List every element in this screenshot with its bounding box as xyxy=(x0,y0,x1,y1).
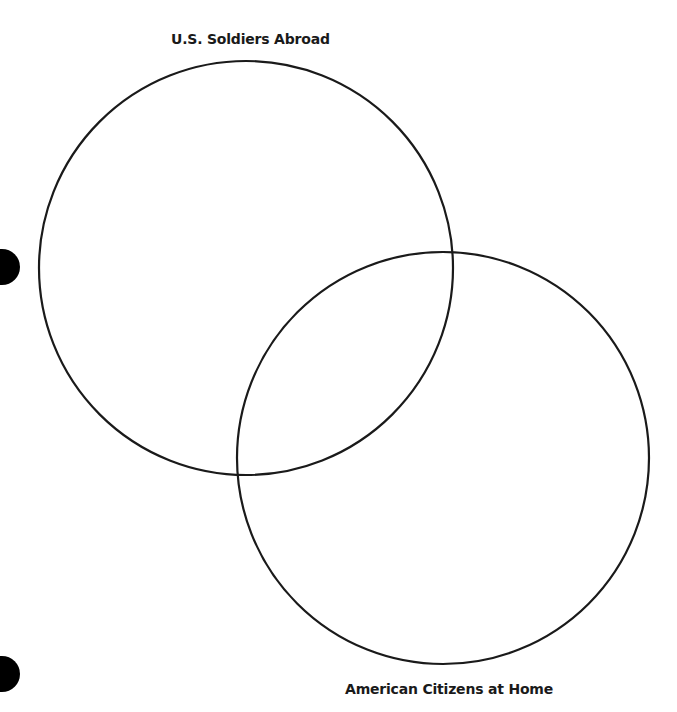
venn-diagram xyxy=(0,0,677,712)
set-label-us-soldiers-abroad: U.S. Soldiers Abroad xyxy=(171,31,330,47)
set-label-american-citizens-at-home: American Citizens at Home xyxy=(345,681,553,697)
circle-us-soldiers-abroad xyxy=(39,61,453,475)
circle-american-citizens-at-home xyxy=(237,252,649,664)
